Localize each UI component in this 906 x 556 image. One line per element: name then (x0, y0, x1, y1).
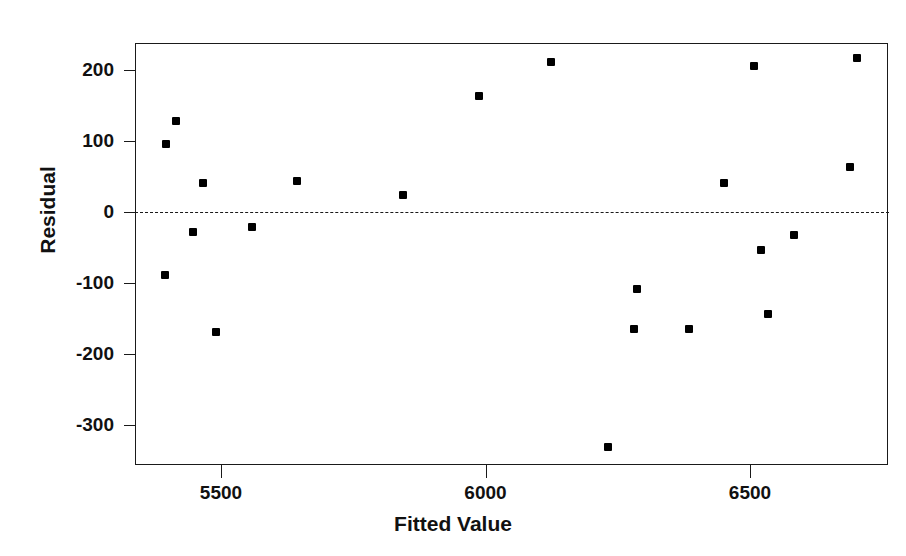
residual-plot-page: Residual Fitted Value 2001000-100-200-30… (0, 0, 906, 556)
y-axis-tick-label: -300 (48, 414, 114, 436)
y-axis-tick-label: -100 (48, 272, 114, 294)
data-point (853, 54, 861, 62)
data-point (172, 117, 180, 125)
data-point (248, 223, 256, 231)
data-point (161, 271, 169, 279)
data-point (685, 325, 693, 333)
data-point (547, 58, 555, 66)
y-axis-tick-label: 200 (48, 59, 114, 81)
data-point (162, 140, 170, 148)
chart-title (0, 0, 906, 3)
x-axis-tick (486, 465, 487, 478)
x-axis-tick-label: 6500 (705, 482, 795, 504)
data-point (604, 443, 612, 451)
y-axis-tick-label: 100 (48, 130, 114, 152)
data-point (750, 62, 758, 70)
scatter-plot-area (135, 43, 888, 465)
data-point (212, 328, 220, 336)
data-point (399, 191, 407, 199)
data-point (790, 231, 798, 239)
x-axis-tick (750, 465, 751, 478)
data-point (720, 179, 728, 187)
data-point (757, 246, 765, 254)
data-point (189, 228, 197, 236)
data-point (764, 310, 772, 318)
x-axis-title: Fitted Value (0, 512, 906, 536)
data-point (199, 179, 207, 187)
data-point (633, 285, 641, 293)
data-point (293, 177, 301, 185)
data-point (630, 325, 638, 333)
data-point (846, 163, 854, 171)
x-axis-tick-label: 5500 (176, 482, 266, 504)
y-axis-tick-label: -200 (48, 343, 114, 365)
x-axis-tick-label: 6000 (441, 482, 531, 504)
x-axis-tick (221, 465, 222, 478)
y-axis-tick-label: 0 (48, 201, 114, 223)
data-point (475, 92, 483, 100)
